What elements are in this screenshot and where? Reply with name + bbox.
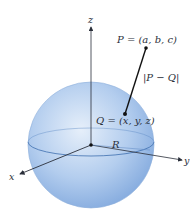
- point-P-label: P = (a, b, c): [116, 34, 177, 45]
- distance-label: |P − Q|: [143, 72, 179, 84]
- y-axis-label: y: [183, 155, 190, 166]
- point-Q-label: Q = (x, y, z): [96, 115, 155, 126]
- z-axis-label: z: [87, 14, 94, 25]
- point-P: [144, 46, 148, 50]
- sphere-diagram: z y x P = (a, b, c) |P − Q| Q = (x, y, z…: [0, 0, 193, 217]
- radius-label: R: [111, 139, 120, 150]
- center-point: [89, 143, 93, 147]
- x-axis-label: x: [9, 171, 15, 182]
